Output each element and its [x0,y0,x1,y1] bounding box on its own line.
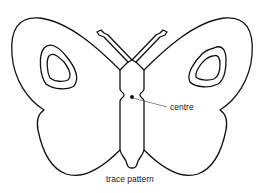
centre-label: centre [170,103,194,112]
left-eyespot-inner [47,54,70,81]
right-antenna [132,30,167,62]
body [120,60,144,168]
right-eyespot-inner [196,55,220,80]
caption: trace pattern [106,175,154,184]
right-wing [144,18,252,176]
centre-leader-line [133,98,167,107]
left-eyespot-outer [40,45,76,89]
left-wing [12,18,120,176]
butterfly-diagram [0,0,256,193]
left-antenna [97,30,132,62]
